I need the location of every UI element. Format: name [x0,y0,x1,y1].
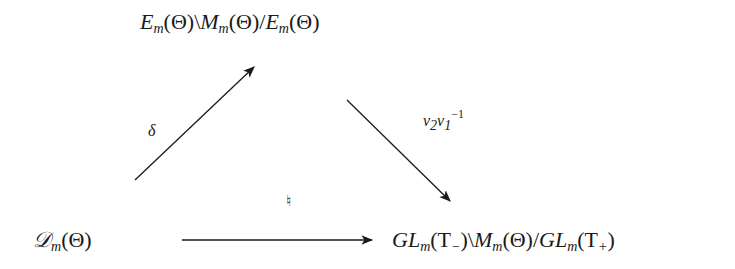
node-top: Em(Θ)\Mm(Θ)/Em(Θ) [140,11,320,33]
label-delta: δ [148,123,155,139]
label-nu: ν2ν1−1 [423,113,464,129]
node-bottom-left: 𝒟m(Θ) [33,229,92,251]
node-bottom-right: GLm(T−)\Mm(Θ)/GLm(T+) [392,229,615,251]
arrows-layer [0,0,735,269]
label-natural: ♮ [286,194,291,209]
